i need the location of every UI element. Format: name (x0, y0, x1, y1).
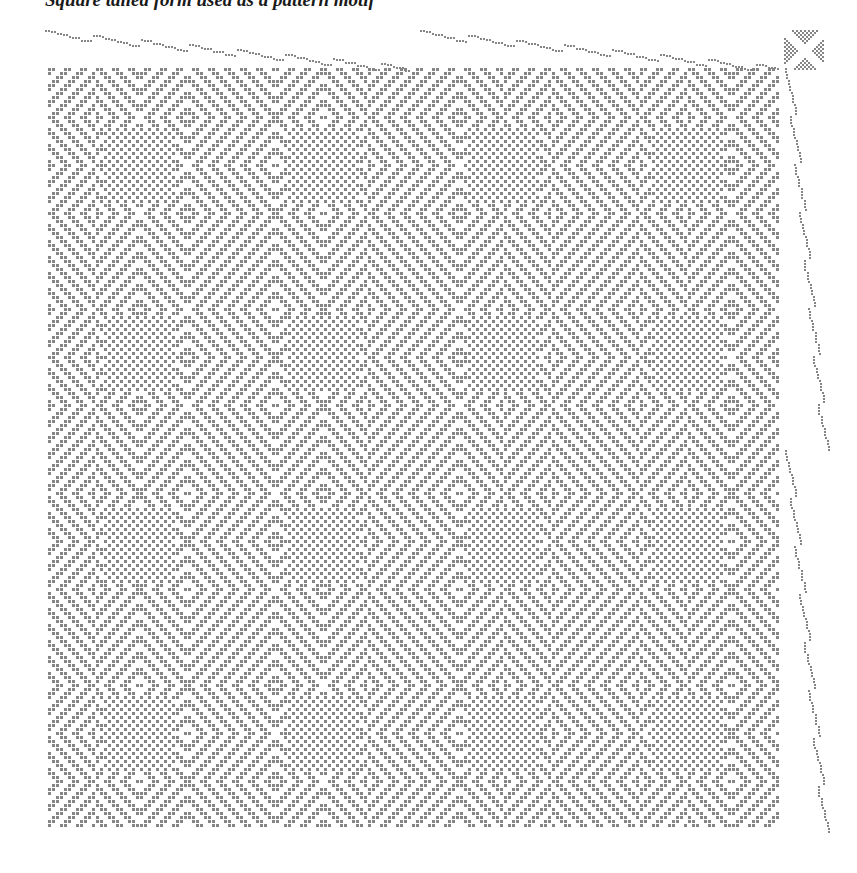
tieup-icon (784, 30, 824, 70)
weaving-drawdown (0, 0, 857, 873)
threading-strip (45, 28, 780, 68)
treadling-strip (782, 68, 827, 833)
